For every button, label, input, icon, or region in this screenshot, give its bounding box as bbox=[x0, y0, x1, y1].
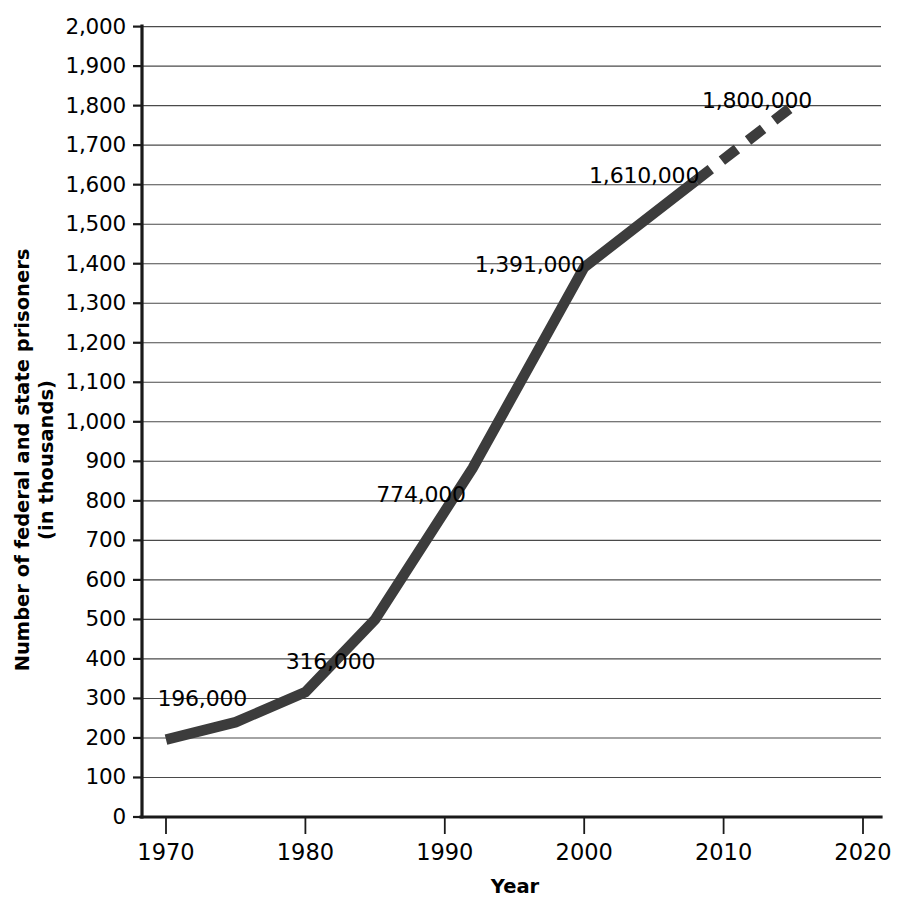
y-tick-label: 700 bbox=[86, 527, 126, 552]
y-tick-label: 1,200 bbox=[65, 330, 126, 355]
data-point-labels: 196,000316,000774,0001,391,0001,610,0001… bbox=[157, 88, 812, 711]
y-tick-label: 100 bbox=[86, 764, 126, 789]
projected-trend-line bbox=[696, 106, 794, 181]
x-tick-label: 2020 bbox=[834, 839, 891, 865]
x-axis-tick-labels: 197019801990200020102020 bbox=[137, 839, 891, 865]
data-point-label: 1,610,000 bbox=[589, 163, 699, 188]
y-tick-label: 1,000 bbox=[65, 409, 126, 434]
x-tick-label: 1980 bbox=[277, 839, 334, 865]
y-tick-label: 1,800 bbox=[65, 93, 126, 118]
data-point-label: 1,800,000 bbox=[702, 88, 812, 113]
y-tick-label: 1,300 bbox=[65, 290, 126, 315]
y-tick-label: 1,900 bbox=[65, 53, 126, 78]
x-tick-label: 2000 bbox=[556, 839, 613, 865]
y-axis-title-line1: Number of federal and state prisoners bbox=[11, 249, 34, 672]
y-tick-label: 1,500 bbox=[65, 211, 126, 236]
y-tick-label: 200 bbox=[86, 725, 126, 750]
y-tick-label: 2,000 bbox=[65, 14, 126, 39]
data-point-label: 774,000 bbox=[376, 482, 466, 507]
y-tick-label: 0 bbox=[113, 804, 126, 829]
y-tick-label: 1,700 bbox=[65, 132, 126, 157]
y-tick-label: 600 bbox=[86, 567, 126, 592]
y-tick-label: 400 bbox=[86, 646, 126, 671]
x-tick-label: 1970 bbox=[137, 839, 194, 865]
y-tick-label: 1,600 bbox=[65, 172, 126, 197]
y-tick-label: 300 bbox=[86, 685, 126, 710]
y-axis-tick-labels: 01002003004005006007008009001,0001,1001,… bbox=[65, 14, 126, 829]
chart-container: 01002003004005006007008009001,0001,1001,… bbox=[0, 0, 897, 910]
x-tick-label: 1990 bbox=[416, 839, 473, 865]
y-tick-label: 1,400 bbox=[65, 251, 126, 276]
y-axis-title-line2: (in thousands) bbox=[35, 380, 58, 540]
y-tick-label: 500 bbox=[86, 606, 126, 631]
data-point-label: 316,000 bbox=[286, 649, 376, 674]
data-series-group bbox=[166, 106, 793, 740]
data-point-label: 196,000 bbox=[157, 686, 247, 711]
x-tick-marks-group bbox=[166, 818, 863, 834]
x-axis-title: Year bbox=[490, 875, 540, 898]
data-point-label: 1,391,000 bbox=[475, 252, 585, 277]
y-tick-label: 1,100 bbox=[65, 369, 126, 394]
x-tick-label: 2010 bbox=[695, 839, 752, 865]
y-tick-label: 800 bbox=[86, 488, 126, 513]
y-tick-label: 900 bbox=[86, 448, 126, 473]
prisoner-population-line bbox=[166, 181, 696, 740]
prisoner-population-line-chart: 01002003004005006007008009001,0001,1001,… bbox=[0, 0, 897, 910]
